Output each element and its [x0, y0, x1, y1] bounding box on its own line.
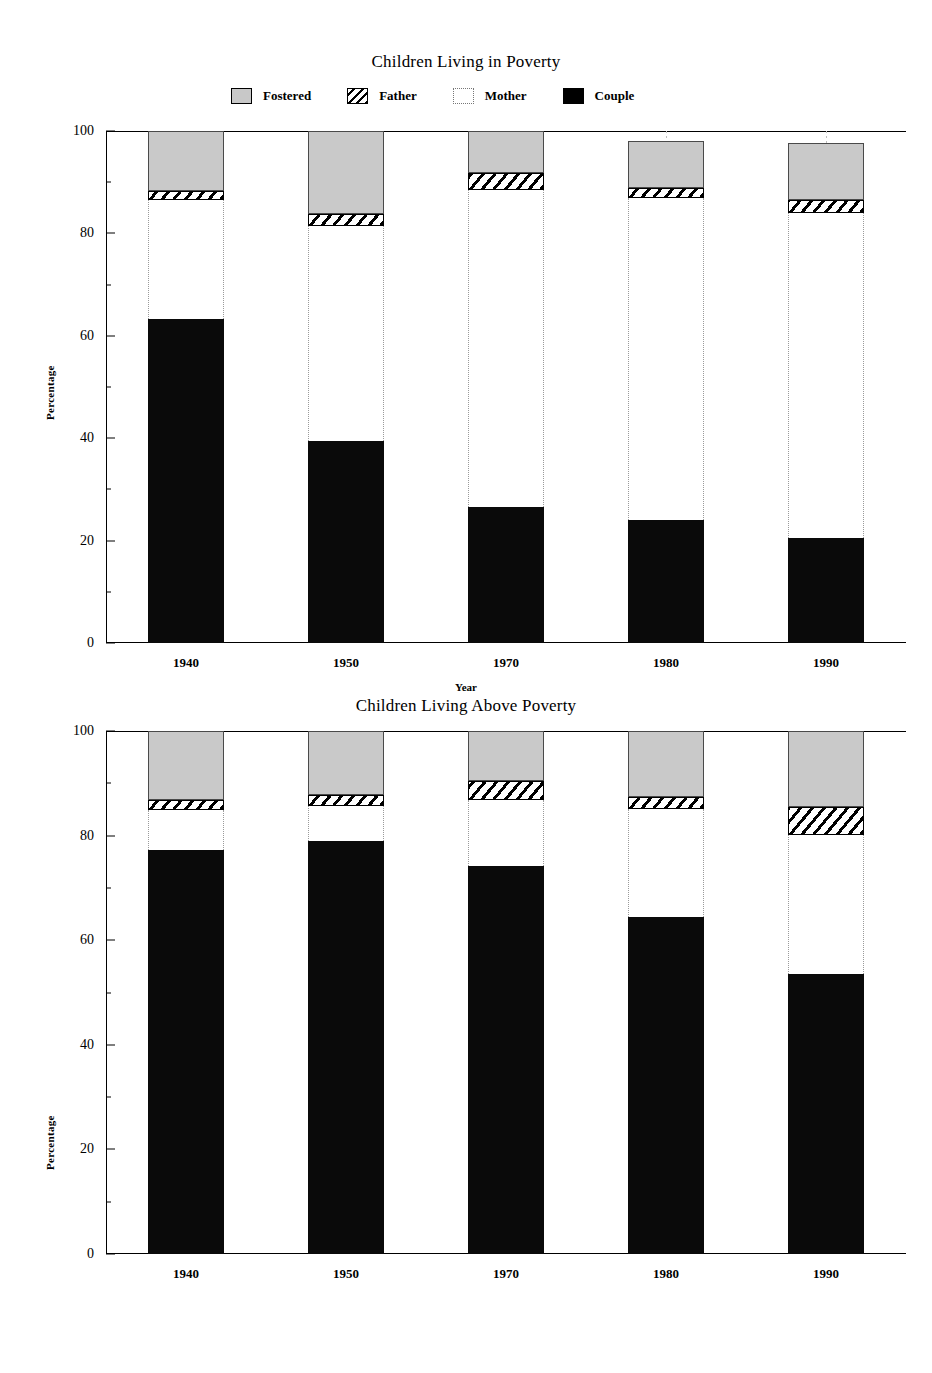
bar-segment-fostered — [628, 731, 704, 797]
x-tick-label: 1980 — [653, 1254, 679, 1282]
y-tick-label: 100 — [73, 123, 106, 139]
bar-segment-couple — [308, 441, 384, 643]
bar-segment-couple — [788, 974, 864, 1254]
bar-segment-mother — [628, 198, 704, 521]
y-tick-mark — [106, 835, 115, 836]
bar-segment-mother — [308, 806, 384, 841]
bar-segment-fostered — [468, 131, 544, 173]
mother-swatch — [453, 88, 474, 104]
y-minor-tick — [106, 1097, 111, 1098]
y-tick-label: 60 — [80, 328, 106, 344]
x-tick-label: 1940 — [173, 1254, 199, 1282]
y-minor-tick — [106, 992, 111, 993]
bar-segment-father — [308, 214, 384, 225]
fostered-swatch — [231, 88, 252, 104]
y-minor-tick — [106, 591, 111, 592]
chart-legend: Fostered Father Mother Couple — [231, 88, 634, 104]
y-tick-mark — [106, 1254, 115, 1255]
bar-segment-fostered — [148, 131, 224, 191]
y-tick-mark — [106, 731, 115, 732]
bar-segment-couple — [148, 319, 224, 643]
bar-segment-mother — [308, 226, 384, 441]
bar-segment-fostered — [628, 141, 704, 188]
y-minor-tick — [106, 887, 111, 888]
bar-segment-mother — [788, 835, 864, 975]
bar-segment-mother — [468, 190, 544, 507]
bar-segment-father — [788, 807, 864, 835]
bar-segment-father — [148, 191, 224, 200]
y-minor-tick — [106, 489, 111, 490]
legend-label-mother: Mother — [485, 88, 527, 104]
y-tick-mark — [106, 643, 115, 644]
x-tick-label: 1990 — [813, 1254, 839, 1282]
bar-segment-fostered — [308, 131, 384, 214]
bar-segment-couple — [628, 917, 704, 1254]
bar-segment-father — [308, 795, 384, 806]
bar-segment-couple — [628, 520, 704, 643]
bar-segment-father — [468, 781, 544, 800]
chart-title-above-poverty: Children Living Above Poverty — [0, 696, 932, 716]
bar-1940[interactable] — [148, 731, 224, 1254]
bar-segment-couple — [148, 850, 224, 1254]
bar-1980[interactable] — [628, 131, 704, 643]
y-tick-mark — [106, 1044, 115, 1045]
bar-segment-couple — [308, 841, 384, 1254]
bar-segment-father — [628, 188, 704, 198]
bar-1980[interactable] — [628, 731, 704, 1254]
y-tick-mark — [106, 335, 115, 336]
bar-segment-father — [148, 800, 224, 810]
bar-1950[interactable] — [308, 731, 384, 1254]
y-tick-label: 100 — [73, 723, 106, 739]
y-axis-label-poverty: Percentage — [44, 365, 56, 420]
bar-segment-mother — [628, 809, 704, 917]
legend-label-couple: Couple — [595, 88, 635, 104]
y-tick-mark — [106, 540, 115, 541]
bar-segment-father — [628, 797, 704, 809]
x-tick-label: 1970 — [493, 1254, 519, 1282]
couple-swatch — [563, 88, 584, 104]
bar-1950[interactable] — [308, 131, 384, 643]
x-tick-label: 1950 — [333, 1254, 359, 1282]
bar-1990[interactable] — [788, 131, 864, 643]
bar-1970[interactable] — [468, 131, 544, 643]
chart-children-living-in-poverty: Children Living in Poverty Fostered Fath… — [0, 0, 932, 690]
bar-segment-fostered — [468, 731, 544, 781]
bar-segment-fostered — [148, 731, 224, 800]
legend-label-father: Father — [379, 88, 417, 104]
bar-segment-mother — [148, 810, 224, 850]
y-tick-label: 80 — [80, 225, 106, 241]
chart-title-poverty: Children Living in Poverty — [0, 52, 932, 72]
legend-item-father: Father — [347, 88, 417, 104]
bar-segment-father — [788, 200, 864, 213]
figure-root: Children Living in Poverty Fostered Fath… — [0, 0, 932, 1373]
y-minor-tick — [106, 1201, 111, 1202]
y-tick-label: 20 — [80, 533, 106, 549]
legend-item-mother: Mother — [453, 88, 527, 104]
bar-segment-fostered — [308, 731, 384, 795]
y-minor-tick — [106, 783, 111, 784]
y-tick-label: 0 — [87, 635, 106, 651]
plot-area-above-poverty: 02040608010019401950197019801990 — [106, 731, 906, 1254]
y-tick-label: 40 — [80, 1037, 106, 1053]
bar-segment-fostered — [788, 731, 864, 807]
bar-segment-mother — [788, 213, 864, 538]
bar-1940[interactable] — [148, 131, 224, 643]
father-swatch — [347, 88, 368, 104]
y-minor-tick — [106, 387, 111, 388]
bar-1970[interactable] — [468, 731, 544, 1254]
y-minor-tick — [106, 182, 111, 183]
x-tick-label: 1940 — [173, 643, 199, 671]
bar-1990[interactable] — [788, 731, 864, 1254]
plot-area-poverty: 02040608010019401950197019801990 — [106, 131, 906, 643]
bar-segment-couple — [468, 507, 544, 643]
y-tick-mark — [106, 1149, 115, 1150]
y-tick-label: 40 — [80, 430, 106, 446]
y-axis-label-above-poverty: Percentage — [44, 1115, 56, 1170]
y-tick-label: 0 — [87, 1246, 106, 1262]
bar-segment-couple — [468, 866, 544, 1254]
y-tick-mark — [106, 233, 115, 234]
bar-segment-fostered — [788, 143, 864, 200]
y-tick-mark — [106, 438, 115, 439]
legend-item-fostered: Fostered — [231, 88, 311, 104]
y-tick-label: 20 — [80, 1141, 106, 1157]
